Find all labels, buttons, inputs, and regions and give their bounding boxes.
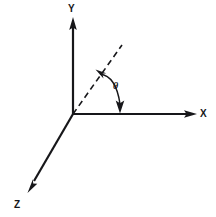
x-axis (73, 110, 197, 118)
theta-angle-label: θ (113, 81, 118, 91)
z-axis-arrowhead (28, 179, 38, 193)
theta-arc-arrowhead-upper (96, 70, 107, 79)
y-axis (69, 17, 77, 114)
x-axis-label: X (200, 109, 207, 119)
theta-arc (96, 70, 125, 114)
z-axis-label: Z (14, 200, 20, 210)
z-axis (28, 114, 74, 193)
z-axis-line (34, 114, 73, 181)
axes-diagram-svg (0, 0, 216, 217)
coordinate-axes-figure: Y X Z θ (0, 0, 216, 217)
y-axis-label: Y (68, 4, 75, 14)
